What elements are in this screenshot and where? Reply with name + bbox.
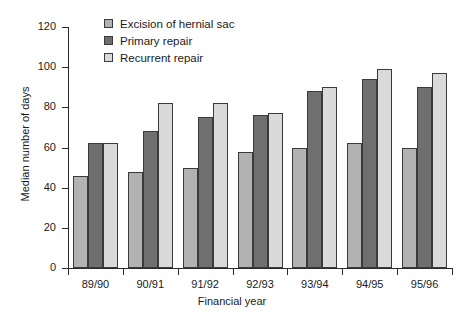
x-tick-3 (287, 268, 288, 275)
legend-swatch-icon-0 (104, 19, 113, 28)
bar-92-93-series0 (238, 152, 253, 268)
y-tick-label-0: 0 (0, 262, 56, 273)
bar-94-95-series2 (377, 69, 392, 268)
bar-92-93-series1 (253, 115, 268, 268)
legend-swatch-icon-2 (104, 53, 113, 62)
x-axis-title: Financial year (0, 295, 464, 307)
bar-94-95-series1 (362, 79, 377, 268)
bar-91-92-series1 (198, 117, 213, 268)
legend-item-1: Primary repair (104, 33, 234, 48)
y-axis-title: Median number of days (19, 49, 31, 239)
legend-item-2: Recurrent repair (104, 50, 234, 65)
chart-legend: Excision of hernial sacPrimary repairRec… (104, 16, 234, 67)
legend-swatch-icon-1 (104, 36, 113, 45)
x-tick-label-95-96: 95/96 (397, 278, 452, 290)
x-tick-label-94-95: 94/95 (342, 278, 397, 290)
bar-95-96-series0 (402, 148, 417, 269)
x-tick-label-90-91: 90/91 (123, 278, 178, 290)
legend-label-1: Primary repair (120, 35, 192, 47)
x-tick-label-91-92: 91/92 (178, 278, 233, 290)
x-tick-label-93-94: 93/94 (287, 278, 342, 290)
bar-93-94-series1 (307, 91, 322, 268)
bar-89-90-series2 (103, 143, 118, 268)
bar-93-94-series2 (322, 87, 337, 268)
x-tick-1 (178, 268, 179, 275)
bar-91-92-series2 (213, 103, 228, 268)
bar-92-93-series2 (268, 113, 283, 268)
x-tick-4 (342, 268, 343, 275)
x-tick-label-89-90: 89/90 (68, 278, 123, 290)
bar-90-91-series0 (128, 172, 143, 268)
x-tick-5 (397, 268, 398, 275)
x-tick-6 (452, 268, 453, 275)
x-tick-0 (123, 268, 124, 275)
bar-95-96-series2 (432, 73, 447, 268)
bar-95-96-series1 (417, 87, 432, 268)
bar-91-92-series0 (183, 168, 198, 268)
bar-93-94-series0 (292, 148, 307, 269)
legend-label-0: Excision of hernial sac (120, 18, 234, 30)
bar-89-90-series0 (73, 176, 88, 268)
y-tick-label-120: 120 (0, 21, 56, 32)
bar-90-91-series2 (158, 103, 173, 268)
x-axis-line (68, 268, 453, 269)
bar-89-90-series1 (88, 143, 103, 268)
bar-chart: 020406080100120 89/9090/9191/9292/9393/9… (0, 0, 464, 318)
bar-94-95-series0 (347, 143, 362, 268)
legend-item-0: Excision of hernial sac (104, 16, 234, 31)
x-tick-label-92-93: 92/93 (233, 278, 288, 290)
bar-90-91-series1 (143, 131, 158, 268)
x-tick-origin (68, 268, 69, 275)
x-tick-2 (233, 268, 234, 275)
legend-label-2: Recurrent repair (120, 52, 203, 64)
